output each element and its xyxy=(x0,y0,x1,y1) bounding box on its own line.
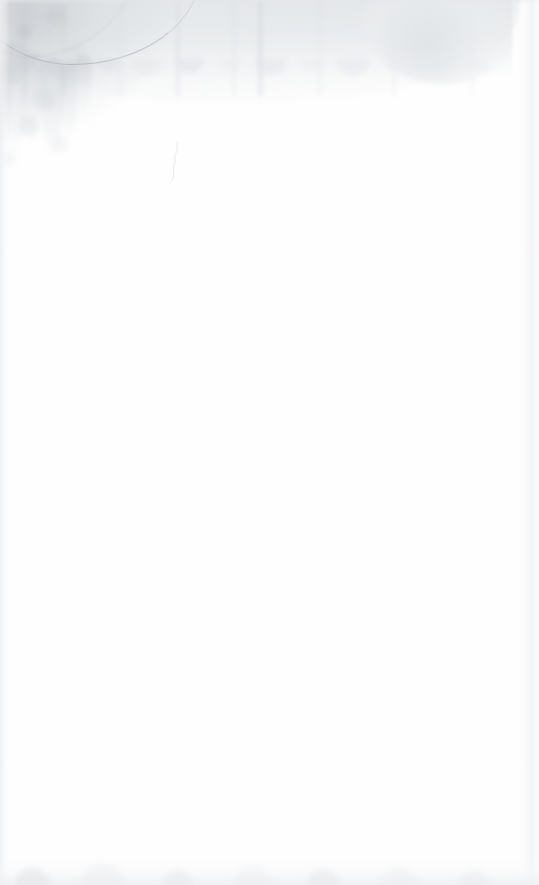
bottom-edge-smudge xyxy=(0,863,539,885)
scanned-page xyxy=(0,0,539,885)
page-edge-shadow-left xyxy=(0,0,10,885)
page-edge-shadow-top xyxy=(0,0,539,4)
page-edge-shadow-right xyxy=(517,0,539,885)
water-stain-group xyxy=(0,0,539,885)
paper-crease-icon xyxy=(164,140,190,184)
